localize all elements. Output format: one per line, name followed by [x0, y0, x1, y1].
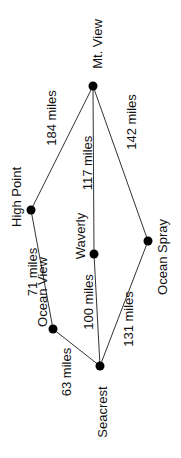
node-high_point-dot-icon: [27, 206, 36, 215]
node-waverly-dot-icon: [90, 250, 99, 259]
node-label-waverly: Waverly: [73, 212, 88, 259]
edge-label-mt_view-high_point: 184 miles: [44, 90, 59, 146]
edge-label-waverly-seacrest: 100 miles: [81, 274, 96, 330]
edge-label-ocean_view-seacrest: 63 miles: [59, 347, 74, 396]
edge-label-ocean_spray-seacrest: 131 miles: [121, 291, 136, 347]
node-label-seacrest: Seacrest: [95, 386, 110, 438]
route-graph: 184 miles117 miles142 miles71 miles100 m…: [0, 0, 181, 458]
node-mt_view-dot-icon: [89, 82, 98, 91]
edge-label-mt_view-ocean_spray: 142 miles: [124, 94, 139, 150]
node-seacrest-dot-icon: [96, 362, 105, 371]
node-label-mt_view: Mt. View: [90, 19, 105, 69]
node-label-ocean_spray: Ocean Spray: [155, 219, 170, 295]
edge-label-mt_view-waverly: 117 miles: [80, 135, 95, 190]
edge-mt_view-ocean_spray: [93, 86, 148, 241]
labels-layer: 184 miles117 miles142 miles71 miles100 m…: [9, 19, 170, 438]
node-label-ocean_view: Ocean View: [35, 256, 50, 326]
node-label-high_point: High Point: [9, 167, 24, 227]
node-ocean_view-dot-icon: [49, 325, 58, 334]
node-ocean_spray-dot-icon: [144, 237, 153, 246]
